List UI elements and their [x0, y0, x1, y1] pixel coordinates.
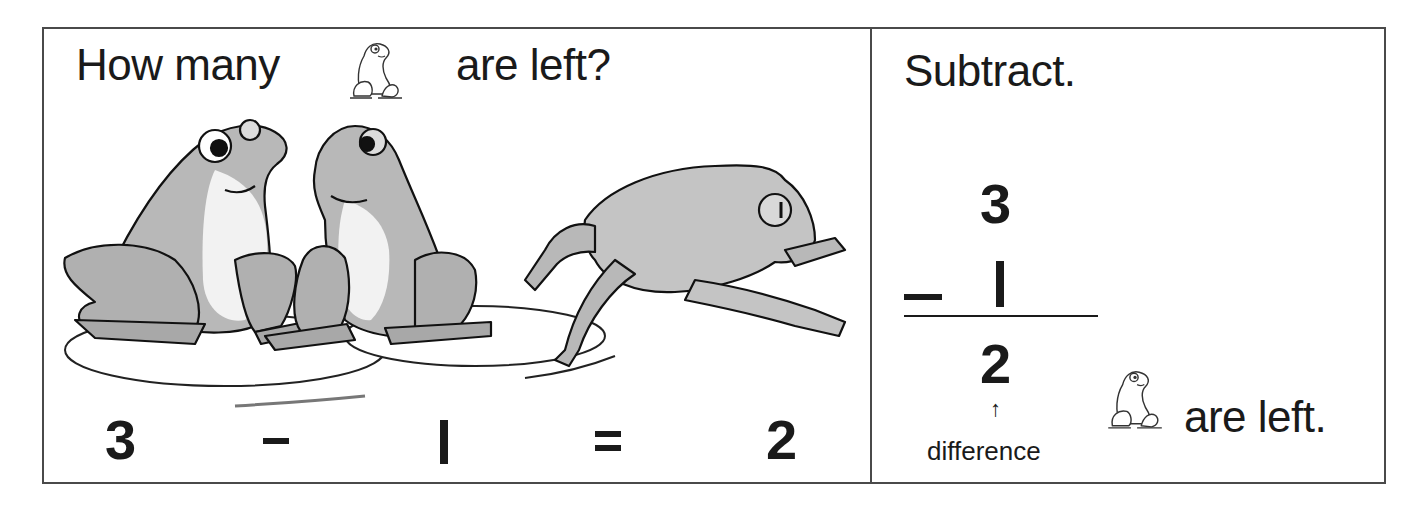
frogs-illustration — [55, 110, 855, 420]
panel-divider — [870, 27, 872, 484]
equation-minuend: 3 — [105, 412, 136, 468]
equation-subtrahend — [440, 412, 448, 468]
subtract-heading: Subtract. — [904, 46, 1076, 96]
equation-minus-sign — [263, 412, 289, 468]
frog-sitting-2 — [265, 126, 491, 350]
sum-line — [904, 315, 1098, 317]
equation-equals-sign — [595, 412, 621, 468]
numeral-one — [996, 261, 1004, 307]
vertical-subtrahend — [996, 254, 1004, 310]
minus-symbol — [904, 294, 942, 300]
frog-icon — [1100, 364, 1168, 432]
question-text-part1: How many — [76, 40, 280, 90]
question-text-part2: are left? — [456, 40, 610, 90]
frog-icon — [342, 36, 408, 102]
answer-text: are left. — [1184, 392, 1326, 442]
numeral-one — [440, 420, 448, 464]
frog-sitting-1 — [64, 120, 317, 344]
equals-symbol — [595, 429, 621, 453]
vertical-minuend: 3 — [980, 176, 1011, 232]
vertical-result: 2 — [980, 336, 1011, 392]
minus-symbol — [263, 438, 289, 444]
frog-jumping — [525, 165, 845, 366]
difference-label: difference — [927, 436, 1041, 467]
equation-result: 2 — [766, 412, 797, 468]
arrow-up-icon: ↑ — [990, 398, 1001, 420]
